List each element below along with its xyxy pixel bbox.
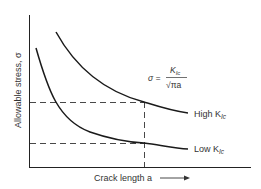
equation-denominator: √πa — [166, 80, 182, 90]
fracture-toughness-diagram: Allowable stress, σ Crack length a σ = K… — [0, 0, 261, 189]
low-kic-curve — [36, 48, 188, 149]
arrow-right-icon — [184, 176, 190, 181]
equation-numerator: KIc — [170, 65, 180, 76]
y-axis-label: Allowable stress, σ — [13, 52, 23, 128]
low-kic-label: Low KIc — [194, 144, 225, 155]
high-kic-label: High KIc — [194, 109, 227, 120]
x-axis-label: Crack length a — [94, 173, 152, 183]
high-kic-curve — [56, 32, 188, 113]
equation-lhs: σ = — [148, 73, 160, 83]
